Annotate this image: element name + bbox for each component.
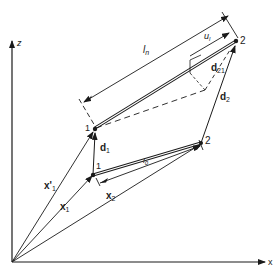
d2-label: d2 (220, 91, 230, 103)
truss-kinematics-diagram: z x ln (0, 0, 280, 273)
d1-vector (93, 133, 95, 175)
d1-label: d1 (100, 142, 110, 154)
deformed-bar (93, 39, 238, 131)
d21-label: d21 (211, 62, 225, 74)
x1-label: x1 (60, 201, 70, 213)
coordinate-axes: z x (12, 38, 273, 267)
node-original-2-label: 2 (205, 135, 211, 146)
x1-prime-vector (12, 132, 93, 262)
node-original-1-label: 1 (96, 161, 101, 171)
node-deformed-2 (234, 39, 238, 43)
z-axis-label: z (16, 38, 22, 48)
x2-vector (12, 144, 201, 262)
ul-label: ul (204, 31, 211, 42)
node-deformed-2-label: 2 (240, 35, 246, 46)
ln-label: ln (143, 44, 149, 56)
node-deformed-1-label: 1 (85, 123, 90, 133)
x2-label: x2 (106, 190, 116, 202)
x1-prime-label: x'1 (44, 180, 56, 192)
vector-labels: d21 d2 d1 x'1 x1 x2 (44, 62, 230, 213)
x-axis-label: x (268, 257, 273, 267)
